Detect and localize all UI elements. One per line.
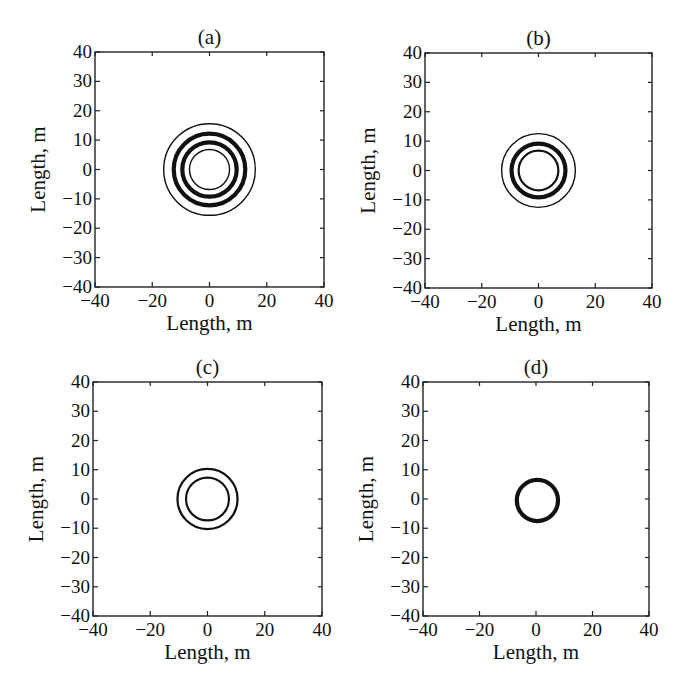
panel-title: (d) xyxy=(524,355,549,379)
y-tick-label: −30 xyxy=(390,576,420,597)
x-tick-label: −20 xyxy=(465,619,495,640)
y-tick-label: −20 xyxy=(390,547,420,568)
y-tick-label: 20 xyxy=(401,430,420,451)
y-tick-label: −10 xyxy=(390,517,420,538)
x-axis-label: Length, m xyxy=(493,640,579,664)
x-tick-label: 0 xyxy=(531,619,541,640)
y-tick-label: −40 xyxy=(390,605,420,626)
y-tick-label: 40 xyxy=(401,371,420,392)
subplot-canvas: (d)−40−2002040403020100−10−20−30−40Lengt… xyxy=(0,0,674,686)
contour-ring-1 xyxy=(517,480,558,521)
y-axis-label: Length, m xyxy=(354,456,378,542)
x-tick-label: 20 xyxy=(583,619,602,640)
plot-frame xyxy=(423,382,649,616)
x-tick-label: 40 xyxy=(640,619,659,640)
y-tick-label: 30 xyxy=(401,400,420,421)
y-tick-label: 0 xyxy=(411,488,421,509)
y-tick-label: 10 xyxy=(401,459,420,480)
contour-group xyxy=(517,480,558,521)
